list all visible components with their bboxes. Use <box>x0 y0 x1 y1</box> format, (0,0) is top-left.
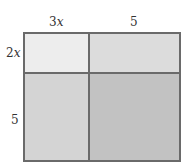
side-label-5-coef: 5 <box>11 113 19 127</box>
top-label-5-coef: 5 <box>130 15 138 29</box>
cell-2x-by-5 <box>90 34 179 72</box>
top-label-3x-var: x <box>57 15 64 29</box>
top-label-5: 5 <box>130 16 138 28</box>
cell-5-by-3x <box>25 74 88 160</box>
side-label-2x-coef: 2 <box>6 46 14 60</box>
side-label-2x-var: x <box>14 46 21 60</box>
top-label-3x: 3x <box>49 16 63 28</box>
top-label-3x-coef: 3 <box>49 15 57 29</box>
horizontal-divider <box>25 72 179 74</box>
side-label-5: 5 <box>11 114 19 126</box>
area-model-rectangle <box>23 32 181 162</box>
cell-5-by-5 <box>90 74 179 160</box>
vertical-divider <box>88 34 90 160</box>
side-label-2x: 2x <box>6 47 20 59</box>
cell-2x-by-3x <box>25 34 88 72</box>
